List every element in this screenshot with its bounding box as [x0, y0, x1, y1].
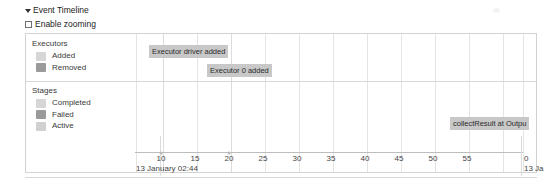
legend-label-completed: Completed [52, 98, 91, 108]
enable-zooming-checkbox[interactable] [25, 21, 32, 28]
swatch-added-icon [36, 52, 46, 61]
axis-tick-15: 15 [191, 154, 200, 163]
axis-tick-20: 20 [225, 154, 234, 163]
bottom-rule [25, 177, 537, 178]
decorative-speck [493, 8, 500, 13]
event-timeline-widget: Event Timeline Enable zooming [0, 0, 551, 182]
axis-separator [521, 136, 522, 176]
legend-title-executors: Executors [32, 38, 86, 49]
caret-down-icon [25, 9, 31, 13]
axis-date-start: 13 January 02:44 [136, 164, 198, 173]
axis-tick-35: 35 [327, 154, 336, 163]
axis-tick-40: 40 [361, 154, 370, 163]
timeline-event-executor-driver-added[interactable]: Executor driver added [149, 45, 228, 58]
timeline-axis: 10 15 20 25 30 35 40 45 50 55 0 13 Janua… [25, 152, 537, 178]
page-title: Event Timeline [33, 5, 89, 16]
legend-label-failed: Failed [52, 110, 74, 120]
legend-item-completed[interactable]: Completed [36, 98, 91, 108]
legend-item-removed[interactable]: Removed [36, 63, 86, 73]
timeline-header: Event Timeline Enable zooming [25, 5, 96, 30]
legend-item-added[interactable]: Added [36, 51, 86, 61]
enable-zooming-row[interactable]: Enable zooming [25, 19, 96, 30]
swatch-removed-icon [36, 63, 46, 72]
axis-tick-55: 55 [463, 154, 472, 163]
enable-zooming-label: Enable zooming [35, 19, 96, 30]
legend-item-active[interactable]: Active [36, 121, 91, 131]
axis-line [135, 152, 523, 153]
legend-title-stages: Stages [32, 85, 91, 96]
timeline-event-collect-result[interactable]: collectResult at Outpu [450, 117, 529, 130]
axis-tick-45: 45 [395, 154, 404, 163]
legend-label-added: Added [52, 51, 75, 61]
legend-label-active: Active [52, 121, 74, 131]
band-separator [26, 81, 536, 82]
axis-date-end: 13 Ja [524, 164, 544, 173]
axis-tick-30: 30 [293, 154, 302, 163]
swatch-completed-icon [36, 99, 46, 108]
swatch-failed-icon [36, 110, 46, 119]
event-timeline-toggle[interactable]: Event Timeline [25, 5, 96, 16]
axis-tick-10: 10 [157, 154, 166, 163]
axis-tick-50: 50 [429, 154, 438, 163]
legend-item-failed[interactable]: Failed [36, 110, 91, 120]
legend-label-removed: Removed [52, 63, 86, 73]
legend-group-executors: Executors Added Removed [32, 38, 86, 74]
axis-tick-25: 25 [259, 154, 268, 163]
swatch-active-icon [36, 122, 46, 131]
timeline-event-executor-0-added[interactable]: Executor 0 added [207, 64, 272, 77]
legend-group-stages: Stages Completed Failed Active [32, 85, 91, 133]
axis-tick-0: 0 [524, 154, 528, 163]
